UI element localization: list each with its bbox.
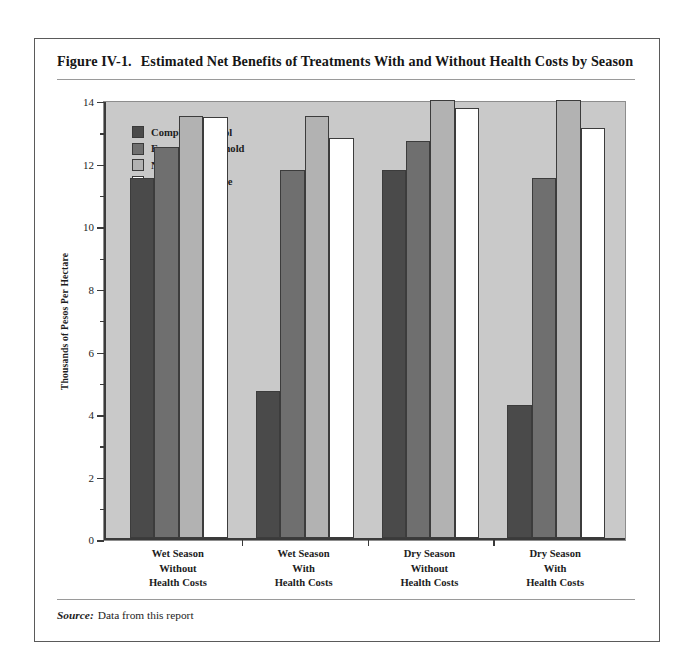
y-tick-label: 8 <box>89 284 95 296</box>
bar <box>382 170 406 538</box>
y-tick-label: 6 <box>89 347 95 359</box>
x-axis-category-line: Wet Season <box>241 547 367 562</box>
y-tick-label: 4 <box>89 409 95 421</box>
x-axis-category-line: Health Costs <box>367 576 493 591</box>
y-tick-major <box>97 290 104 291</box>
bar <box>430 100 454 538</box>
x-axis-category-label: Dry SeasonWithoutHealth Costs <box>367 547 493 591</box>
bar <box>130 178 154 538</box>
x-axis-category-line: Health Costs <box>241 576 367 591</box>
y-tick-label: 2 <box>89 472 95 484</box>
x-axis-category-line: Health Costs <box>115 576 241 591</box>
x-group-separator-tick <box>493 540 494 546</box>
y-tick-major <box>97 165 104 166</box>
x-axis-category-line: Dry Season <box>367 547 493 562</box>
bar-series-layer <box>104 102 625 540</box>
x-axis-category-label: Dry SeasonWithHealth Costs <box>492 547 618 591</box>
x-axis-category-line: With <box>492 562 618 577</box>
y-tick-major <box>97 415 104 416</box>
x-axis-category-line: With <box>241 562 367 577</box>
x-axis-category-line: Without <box>367 562 493 577</box>
y-tick-major <box>97 540 104 541</box>
y-tick-major <box>97 227 104 228</box>
figure-title-text: Estimated Net Benefits of Treatments Wit… <box>141 53 634 69</box>
x-group-separator-tick <box>368 540 369 546</box>
x-group-separator-tick <box>242 540 243 546</box>
chart-plot-area: 02468101214 Complete ControlEconomic Thr… <box>103 101 626 541</box>
y-tick-label: 14 <box>83 96 94 108</box>
y-tick-label: 0 <box>89 534 95 546</box>
x-axis-category-line: Health Costs <box>492 576 618 591</box>
y-tick-major <box>97 353 104 354</box>
source-divider <box>57 599 635 600</box>
source-text: Data from this report <box>98 609 194 621</box>
x-axis-category-line: Dry Season <box>492 547 618 562</box>
x-axis-category-line: Without <box>115 562 241 577</box>
y-axis-title-text: Thousands of Pesos Per Hectare <box>60 252 71 389</box>
source-note: Source:Data from this report <box>57 609 194 621</box>
figure-number: Figure IV-1. <box>57 53 132 69</box>
y-tick-label: 10 <box>83 221 94 233</box>
legend-swatch-icon <box>132 159 144 171</box>
figure-frame: Figure IV-1.Estimated Net Benefits of Tr… <box>34 38 660 642</box>
figure-page: Figure IV-1.Estimated Net Benefits of Tr… <box>0 0 694 672</box>
bar <box>305 116 329 539</box>
bar <box>280 170 304 538</box>
x-axis-category-label: Wet SeasonWithoutHealth Costs <box>115 547 241 591</box>
bar <box>581 128 605 538</box>
x-axis-category-label: Wet SeasonWithHealth Costs <box>241 547 367 591</box>
x-axis-category-line: Wet Season <box>115 547 241 562</box>
bar <box>154 147 178 538</box>
legend-swatch-icon <box>132 126 144 138</box>
bar <box>203 117 227 538</box>
title-divider <box>57 79 635 80</box>
y-tick-label: 12 <box>83 159 94 171</box>
y-axis-title: Thousands of Pesos Per Hectare <box>57 101 73 541</box>
bar <box>532 178 556 538</box>
bar <box>406 141 430 539</box>
y-tick-major <box>97 478 104 479</box>
bar <box>256 391 280 538</box>
bar <box>179 116 203 539</box>
page-title: Figure IV-1.Estimated Net Benefits of Tr… <box>57 53 647 70</box>
y-tick-major <box>97 102 104 103</box>
legend-swatch-icon <box>132 143 144 155</box>
bar <box>556 100 580 538</box>
source-label: Source: <box>57 609 94 621</box>
bar <box>507 405 531 538</box>
bar <box>455 108 479 539</box>
bar <box>329 138 353 539</box>
